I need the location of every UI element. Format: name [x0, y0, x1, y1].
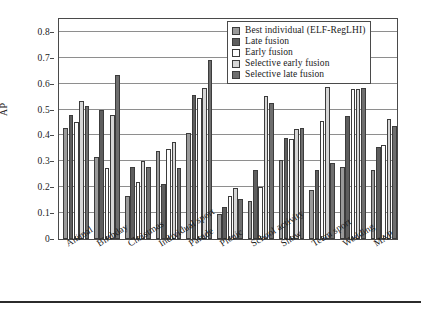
y-tick-label: 0.3 — [38, 156, 50, 166]
bar — [269, 103, 274, 239]
y-tick-mark — [50, 213, 54, 214]
y-tick-label: 0.2 — [38, 182, 50, 192]
legend-swatch-icon — [232, 49, 240, 57]
y-tick-label: 0.8 — [38, 27, 50, 37]
y-tick-mark — [50, 187, 54, 188]
bar-group — [94, 19, 120, 239]
y-tick-label: 0.4 — [38, 130, 50, 140]
bar — [172, 142, 177, 239]
legend-label: Selective late fusion — [245, 69, 324, 80]
y-tick-mark — [50, 58, 54, 59]
y-tick-label: 0.6 — [38, 79, 50, 89]
bar — [63, 128, 68, 239]
bar — [387, 119, 392, 239]
y-tick-mark — [50, 239, 54, 240]
bar — [94, 157, 99, 239]
legend-label: Early fusion — [245, 47, 293, 58]
figure-container: AP 00.10.20.30.40.50.60.70.8 AnimalBirth… — [0, 0, 421, 309]
legend-label: Best individual (ELF-RegLHI) — [245, 25, 365, 36]
y-tick-label: 0.5 — [38, 105, 50, 115]
bar — [376, 147, 381, 239]
bar — [381, 145, 386, 239]
bar-group — [186, 19, 212, 239]
bar — [315, 170, 320, 239]
y-tick-mark — [50, 110, 54, 111]
legend-swatch-icon — [232, 27, 240, 35]
legend-item: Selective late fusion — [232, 69, 365, 80]
bar — [361, 88, 366, 239]
bar — [85, 106, 90, 239]
y-tick-mark — [50, 32, 54, 33]
bar — [115, 75, 120, 239]
legend-label: Late fusion — [245, 36, 289, 47]
bar — [166, 149, 171, 239]
bar — [253, 170, 258, 239]
bar — [74, 122, 79, 239]
legend-swatch-icon — [232, 60, 240, 68]
legend-swatch-icon — [232, 71, 240, 79]
bar — [264, 96, 269, 239]
bar — [320, 121, 325, 239]
y-tick-mark — [50, 84, 54, 85]
y-tick-label: 0.1 — [38, 208, 50, 218]
bar — [130, 167, 135, 239]
y-tick-mark — [50, 161, 54, 162]
y-tick-label: 0.7 — [38, 53, 50, 63]
bar — [79, 101, 84, 239]
bar — [248, 201, 253, 239]
bar-group — [156, 19, 182, 239]
bar — [392, 126, 397, 239]
y-axis: 00.10.20.30.40.50.60.70.8 — [20, 18, 54, 240]
bottom-divider — [0, 301, 421, 303]
y-axis-title: AP — [0, 102, 9, 116]
legend-item: Early fusion — [232, 47, 365, 58]
legend-item: Selective early fusion — [232, 58, 365, 69]
bar — [99, 110, 104, 239]
bar — [217, 214, 222, 239]
chart-legend: Best individual (ELF-RegLHI)Late fusionE… — [227, 21, 371, 84]
bar — [309, 190, 314, 239]
legend-label: Selective early fusion — [245, 58, 330, 69]
bar-group — [371, 19, 397, 239]
bar — [300, 128, 305, 239]
legend-swatch-icon — [232, 38, 240, 46]
legend-item: Best individual (ELF-RegLHI) — [232, 25, 365, 36]
x-axis: AnimalBirthdayChristmasIndividual sportP… — [58, 240, 398, 306]
bar — [69, 115, 74, 239]
bar — [161, 184, 166, 239]
bar — [325, 87, 330, 239]
bar — [110, 115, 115, 239]
bar — [356, 89, 361, 239]
bar — [351, 89, 356, 239]
bar — [105, 168, 110, 239]
bar-group — [125, 19, 151, 239]
bar-group — [63, 19, 89, 239]
legend-item: Late fusion — [232, 36, 365, 47]
y-tick-mark — [50, 135, 54, 136]
